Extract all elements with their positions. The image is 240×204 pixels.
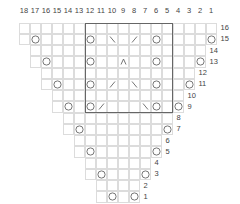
chart-cell (140, 146, 151, 157)
chart-cell (74, 68, 85, 79)
circle-icon (74, 124, 85, 135)
chart-cell (129, 180, 140, 191)
circle-icon (52, 79, 63, 90)
column-label: 7 (140, 6, 151, 16)
chart-cell (118, 113, 129, 124)
column-label: 17 (30, 6, 41, 16)
chart-cell (74, 56, 85, 67)
column-label: 18 (19, 6, 30, 16)
chart-cell (118, 158, 129, 169)
chart-cell (184, 45, 195, 56)
chart-cell (19, 23, 30, 34)
chart-cell (41, 68, 52, 79)
chart-cell (96, 158, 107, 169)
chart-cell (107, 180, 118, 191)
chart-cell (63, 34, 74, 45)
chart-cell (151, 135, 162, 146)
chart-cell (85, 169, 96, 180)
chart-cell (107, 124, 118, 135)
chart-cell (63, 113, 74, 124)
row-label: 8 (177, 113, 181, 123)
row-label: 12 (199, 68, 207, 78)
chart-cell (74, 45, 85, 56)
chart-cell (41, 45, 52, 56)
column-label: 13 (74, 6, 85, 16)
chart-cell (85, 158, 96, 169)
circle-icon (85, 146, 96, 157)
chart-cell (74, 101, 85, 112)
chart-cell (30, 56, 41, 67)
column-label: 4 (173, 6, 184, 16)
chart-cell (173, 23, 184, 34)
chart-cell (74, 34, 85, 45)
chart-cell (129, 158, 140, 169)
column-label: 9 (118, 6, 129, 16)
chart-cell (107, 158, 118, 169)
chart-cell (162, 113, 173, 124)
chart-cell (151, 124, 162, 135)
circle-icon (63, 101, 74, 112)
chart-cell (107, 169, 118, 180)
chart-cell (41, 23, 52, 34)
chart-cell (52, 45, 63, 56)
chart-cell (52, 23, 63, 34)
chart-cell (173, 79, 184, 90)
column-label: 1 (206, 6, 217, 16)
circle-icon (30, 34, 41, 45)
circle-icon (129, 191, 140, 202)
column-label: 10 (107, 6, 118, 16)
chart-cell (107, 146, 118, 157)
chart-cell (30, 45, 41, 56)
chart-cell (19, 34, 30, 45)
chart-cell (184, 34, 195, 45)
chart-cell (195, 23, 206, 34)
chart-cell (140, 124, 151, 135)
column-label: 11 (96, 6, 107, 16)
chart-cell (195, 45, 206, 56)
chart-cell (118, 146, 129, 157)
chart-cell (96, 135, 107, 146)
column-label: 3 (184, 6, 195, 16)
chart-cell (140, 135, 151, 146)
chart-cell (96, 113, 107, 124)
chart-cell (107, 113, 118, 124)
circle-icon (206, 34, 217, 45)
circle-icon (96, 169, 107, 180)
row-label: 10 (188, 91, 196, 101)
row-label: 5 (166, 147, 170, 157)
chart-cell (173, 34, 184, 45)
chart-cell (41, 34, 52, 45)
row-label: 6 (166, 136, 170, 146)
row-label: 9 (188, 102, 192, 112)
chart-cell (74, 90, 85, 101)
chart-cell (129, 113, 140, 124)
chart-cell (184, 23, 195, 34)
chart-cell (85, 135, 96, 146)
chart-cell (52, 90, 63, 101)
chart-cell (63, 124, 74, 135)
column-label: 15 (52, 6, 63, 16)
column-label: 2 (195, 6, 206, 16)
chart-cell (63, 23, 74, 34)
circle-icon (107, 191, 118, 202)
chart-cell (195, 34, 206, 45)
row-label: 3 (155, 169, 159, 179)
chart-cell (107, 135, 118, 146)
chart-cell (85, 124, 96, 135)
chart-cell (74, 146, 85, 157)
chart-cell (96, 146, 107, 157)
chart-cell (118, 124, 129, 135)
column-label: 8 (129, 6, 140, 16)
chart-cell (129, 169, 140, 180)
row-label: 2 (144, 181, 148, 191)
chart-cell (118, 191, 129, 202)
chart-cell (63, 68, 74, 79)
chart-cell (63, 90, 74, 101)
row-label: 4 (155, 158, 159, 168)
chart-cell (63, 79, 74, 90)
chart-cell (96, 191, 107, 202)
chart-cell (74, 79, 85, 90)
chart-cell (63, 56, 74, 67)
chart-cell (96, 124, 107, 135)
repeat-box (85, 23, 173, 113)
